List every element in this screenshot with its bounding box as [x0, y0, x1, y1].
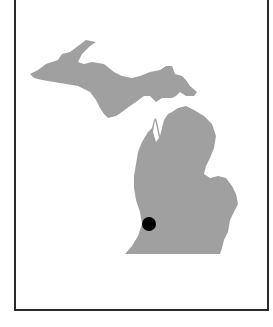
upper-peninsula	[30, 40, 197, 118]
lower-peninsula	[125, 106, 238, 254]
michigan-map	[0, 0, 273, 327]
map-caption	[0, 320, 273, 327]
location-marker	[142, 217, 156, 231]
